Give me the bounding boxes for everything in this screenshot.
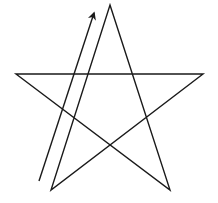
star-shape xyxy=(16,5,203,190)
pentagram-diagram xyxy=(0,0,218,203)
